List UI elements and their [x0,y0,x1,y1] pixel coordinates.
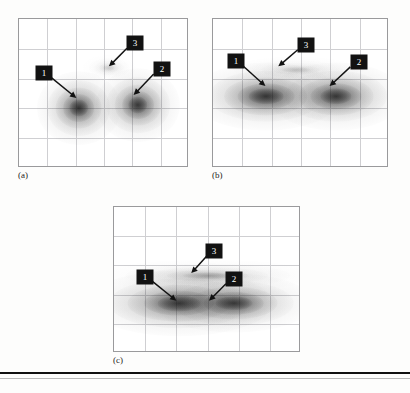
density-blobs-a [19,19,187,166]
callout-box-1[interactable]: 1 [228,54,245,69]
subfigure-label-b: (b) [212,170,223,180]
plot-frame-a: 123 [18,18,188,167]
plot-frame-b: 123 [212,18,388,167]
callout-box-1[interactable]: 1 [137,270,154,285]
subfigure-label-c: (c) [113,355,123,365]
callout-box-3[interactable]: 3 [298,38,315,53]
callout-box-1[interactable]: 1 [36,66,53,81]
footer-rule-secondary [0,378,410,379]
callout-box-2[interactable]: 2 [154,62,171,77]
callout-box-3[interactable]: 3 [206,244,223,259]
callout-box-2[interactable]: 2 [351,55,368,70]
plot-panel-c: 123 [113,206,300,352]
subfigure-label-a: (a) [18,170,28,180]
plot-panel-b: 123 [212,18,388,167]
plot-panel-a: 123 [18,18,188,167]
plot-frame-c: 123 [113,206,300,352]
footer-rule [0,372,410,374]
callout-box-2[interactable]: 2 [226,272,243,287]
density-blob-2 [215,297,252,311]
callout-box-3[interactable]: 3 [127,36,144,51]
